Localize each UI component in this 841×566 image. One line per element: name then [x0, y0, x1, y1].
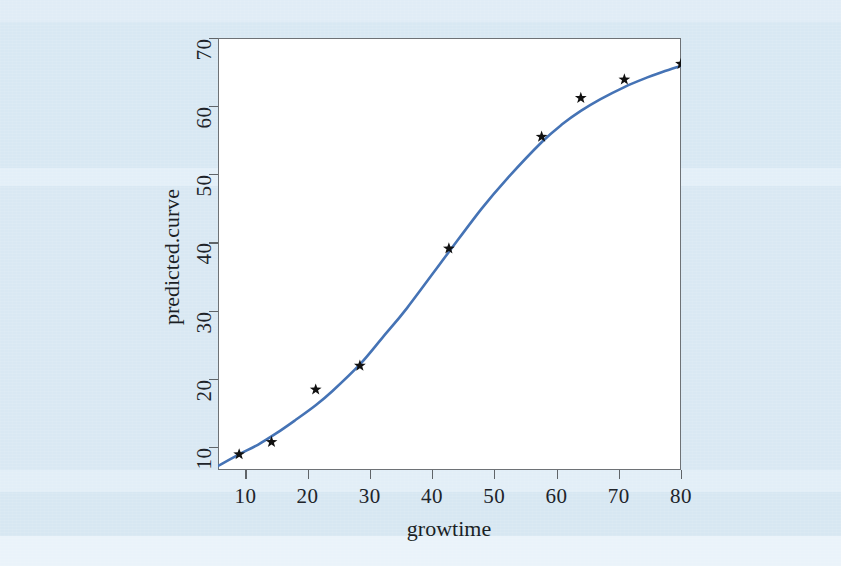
x-tick-mark [494, 470, 495, 479]
x-tick-mark [245, 470, 246, 479]
star-marker [536, 131, 548, 142]
y-tick-label: 10 [194, 447, 215, 505]
x-tick-mark [432, 470, 433, 479]
x-tick-label: 30 [359, 486, 381, 507]
y-tick-label: 30 [194, 311, 215, 369]
x-tick-label: 40 [421, 486, 443, 507]
y-tick-label: 70 [194, 39, 215, 97]
x-tick-label: 60 [546, 486, 568, 507]
x-tick-label: 50 [483, 486, 505, 507]
x-tick-label: 80 [670, 486, 692, 507]
y-tick-label: 60 [194, 107, 215, 165]
data-point-markers [233, 58, 681, 460]
x-tick-mark [308, 470, 309, 479]
y-axis-title: predicted.curve [159, 157, 185, 357]
x-tick-label: 10 [234, 486, 256, 507]
x-tick-mark [681, 470, 682, 479]
x-tick-label: 70 [608, 486, 630, 507]
predicted-curve-line [218, 66, 681, 466]
star-marker [575, 92, 587, 103]
x-tick-label: 20 [297, 486, 319, 507]
star-marker [310, 383, 322, 394]
x-tick-mark [557, 470, 558, 479]
y-tick-label: 40 [194, 243, 215, 301]
x-axis-title: growtime [407, 516, 491, 542]
x-tick-mark [370, 470, 371, 479]
y-tick-label: 50 [194, 175, 215, 233]
x-tick-mark [619, 470, 620, 479]
plot-canvas [218, 38, 681, 470]
y-tick-label: 20 [194, 379, 215, 437]
chart-figure: 1020304050607080 10203040506070 growtime… [0, 0, 841, 566]
star-marker [618, 73, 630, 84]
